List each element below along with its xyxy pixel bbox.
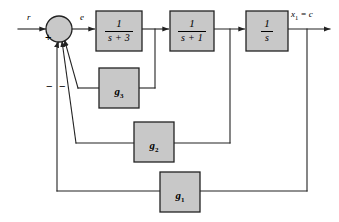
block-g1 <box>160 172 200 212</box>
block-g2 <box>134 122 174 162</box>
diagram-vector-layer <box>0 0 339 222</box>
summing-junction <box>46 16 72 42</box>
wire-g3-to-sum <box>65 40 79 88</box>
block-1-over-s-plus-3 <box>96 11 142 51</box>
block-diagram-canvas: 1 s + 3 1 s + 1 1 s g3 g2 g1 r e x1 = c <box>0 0 339 222</box>
block-g3 <box>99 68 139 108</box>
block-1-over-s-plus-1 <box>170 11 214 51</box>
block-1-over-s <box>246 11 288 51</box>
